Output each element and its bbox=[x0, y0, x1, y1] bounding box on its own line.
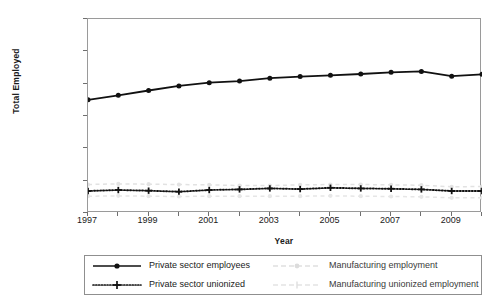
x-tick-label: 1997 bbox=[67, 215, 107, 225]
chart-figure: Total Employed 01,000,0002,000,0003,000,… bbox=[0, 0, 497, 302]
plot-series-svg bbox=[88, 19, 482, 213]
series-private-sector-employees bbox=[88, 69, 482, 102]
solid-line-dot-marker-icon bbox=[91, 260, 143, 272]
faint-dashed-line-icon bbox=[271, 279, 323, 291]
x-tick-mark bbox=[481, 212, 482, 216]
x-tick-label: 1999 bbox=[128, 215, 168, 225]
legend-label: Manufacturing unionized employment bbox=[329, 280, 479, 289]
legend-label: Private sector employees bbox=[149, 261, 250, 270]
series-manufacturing-employment bbox=[88, 182, 482, 189]
x-tick-mark bbox=[239, 212, 240, 216]
x-tick-label: 2001 bbox=[188, 215, 228, 225]
x-tick-label: 2007 bbox=[370, 215, 410, 225]
x-tick-mark bbox=[178, 212, 179, 216]
x-tick-mark bbox=[360, 212, 361, 216]
x-axis-title: Year bbox=[87, 236, 481, 246]
legend-item-private-sector-employees[interactable]: Private sector employees bbox=[85, 256, 265, 275]
legend-label: Private sector unionized bbox=[149, 280, 245, 289]
faint-dashed-line-icon bbox=[271, 260, 323, 272]
x-tick-label: 2009 bbox=[431, 215, 471, 225]
x-tick-mark bbox=[117, 212, 118, 216]
series-manufacturing-unionized-employment bbox=[88, 194, 482, 200]
x-tick-label: 2005 bbox=[309, 215, 349, 225]
plot-area bbox=[87, 18, 481, 212]
x-tick-label: 2003 bbox=[249, 215, 289, 225]
x-tick-mark bbox=[299, 212, 300, 216]
y-axis-title: Total Employed bbox=[11, 21, 21, 141]
legend-item-private-sector-unionized[interactable]: Private sector unionized bbox=[85, 275, 265, 294]
legend-label: Manufacturing employment bbox=[329, 261, 438, 270]
dotted-line-plus-marker-icon bbox=[91, 279, 143, 291]
x-tick-mark bbox=[420, 212, 421, 216]
chart-legend: Private sector employees Manufacturing e… bbox=[84, 255, 482, 295]
legend-item-manufacturing-employment[interactable]: Manufacturing employment bbox=[265, 256, 483, 275]
legend-item-manufacturing-unionized-employment[interactable]: Manufacturing unionized employment bbox=[265, 275, 483, 294]
